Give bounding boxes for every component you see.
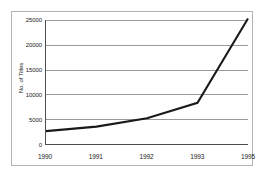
series-line-no-of-titles bbox=[46, 19, 248, 132]
y-tick-label: 10000 bbox=[26, 92, 42, 98]
data-series-svg bbox=[46, 20, 248, 144]
x-tick-label: 1991 bbox=[89, 153, 103, 160]
x-tick-label: 1995 bbox=[241, 153, 255, 160]
x-tick-label: 1992 bbox=[139, 153, 153, 160]
y-axis-tick-labels: 25000 20000 15000 10000 5000 0 bbox=[16, 20, 42, 145]
y-tick-label: 15000 bbox=[26, 67, 42, 73]
y-tick-label: 25000 bbox=[26, 17, 42, 23]
plot-area bbox=[45, 20, 248, 145]
y-tick-label: 20000 bbox=[26, 42, 42, 48]
x-tick-label: 1990 bbox=[38, 153, 52, 160]
y-tick-label: 5000 bbox=[29, 117, 42, 123]
x-tick-label: 1993 bbox=[190, 153, 204, 160]
y-tick-label: 0 bbox=[39, 142, 42, 148]
chart-figure: No. of Titles 25000 20000 15000 10000 50… bbox=[0, 0, 267, 177]
x-axis-tick-labels: 1990 1991 1992 1993 1995 bbox=[45, 153, 248, 165]
